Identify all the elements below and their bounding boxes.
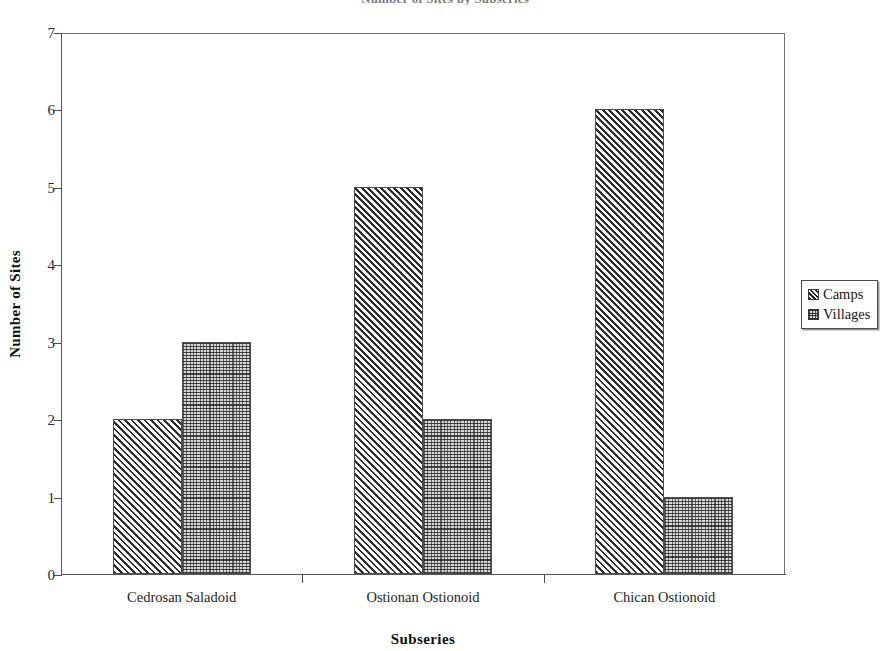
y-tick-label: 3 [48, 335, 56, 350]
x-category-label-1: Ostionan Ostionoid [366, 589, 479, 606]
plot-border-top [61, 33, 785, 34]
stipple-swatch-icon [808, 309, 819, 320]
y-tick-mark [54, 498, 61, 499]
chart-legend: CampsVillages [801, 280, 878, 329]
bar-camps-1 [354, 187, 423, 574]
x-category-label-2: Chican Ostionoid [613, 589, 715, 606]
plot-border-right [784, 33, 785, 575]
bar-camps-0 [113, 419, 182, 574]
hatch-swatch-icon [808, 289, 819, 300]
legend-label: Villages [823, 306, 870, 323]
y-axis-title: Number of Sites [7, 250, 24, 358]
x-axis-line [61, 574, 786, 575]
legend-item-villages: Villages [808, 306, 870, 323]
x-category-label-0: Cedrosan Saladoid [127, 589, 236, 606]
y-axis-line [61, 33, 62, 576]
x-axis-title: Subseries [391, 631, 455, 648]
y-tick-label: 6 [48, 103, 56, 118]
bar-villages-2 [664, 497, 733, 574]
legend-label: Camps [823, 286, 863, 303]
y-tick-label: 7 [48, 26, 56, 41]
chart-title-cropped: Number of Sites by Subseries [0, 0, 890, 5]
y-tick-label: 5 [48, 180, 56, 195]
x-separator-tick [302, 575, 303, 583]
bar-villages-0 [182, 342, 251, 574]
plot-area: 76543210 Number of Sites Cedrosan Salado… [61, 33, 785, 575]
y-tick-label: 0 [48, 568, 56, 583]
y-tick-mark [54, 575, 61, 576]
y-tick-mark [54, 188, 61, 189]
y-tick-label: 4 [48, 258, 56, 273]
y-tick-mark [54, 420, 61, 421]
x-separator-tick [544, 575, 545, 583]
legend-item-camps: Camps [808, 286, 870, 303]
y-tick-label: 1 [48, 490, 56, 505]
bar-chart-figure: Number of Sites by Subseries 76543210 Nu… [0, 0, 890, 651]
y-tick-mark [54, 343, 61, 344]
y-tick-label: 2 [48, 413, 56, 428]
bar-villages-1 [423, 419, 492, 574]
bar-camps-2 [595, 109, 664, 574]
